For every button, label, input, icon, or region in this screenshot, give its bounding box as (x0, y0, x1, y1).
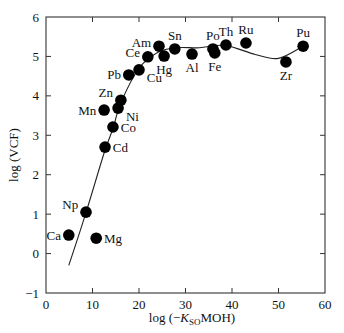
data-point-mg (90, 232, 102, 244)
x-tick-label: 10 (86, 297, 99, 312)
axis-tick-labels: 0102030405060−10123456 (25, 10, 331, 313)
x-axis-title-sub: SO (189, 317, 201, 327)
y-tick-label: 3 (33, 128, 40, 143)
data-point-cd (99, 141, 111, 153)
data-point-ce (142, 51, 154, 63)
data-point-zr (280, 56, 292, 68)
data-point-label: Pu (296, 25, 310, 40)
data-point-label: Fe (208, 59, 221, 74)
data-point-label: Th (219, 24, 234, 39)
data-point-label: Al (186, 60, 199, 75)
x-tick-label: 50 (272, 297, 285, 312)
y-tick-label: 4 (33, 88, 40, 103)
x-axis-title-suffix: MOH) (201, 310, 236, 325)
data-point-pb (123, 69, 135, 81)
scatter-chart: 0102030405060−10123456 CaNpMgCdCoMnNiZnP… (0, 0, 344, 333)
data-point-label: Ca (47, 228, 62, 243)
data-point-label: Pb (107, 67, 121, 82)
data-point-th (220, 39, 232, 51)
x-tick-label: 0 (43, 297, 50, 312)
data-point-mn (98, 104, 110, 116)
data-point-cu (133, 64, 145, 76)
y-tick-label: 0 (33, 246, 40, 261)
data-point-label: Mg (104, 231, 123, 246)
data-point-label: Sn (168, 28, 182, 43)
data-point-np (80, 206, 92, 218)
x-tick-label: 60 (319, 297, 332, 312)
data-point-label: Zr (280, 68, 293, 83)
data-point-label: Hg (156, 62, 172, 77)
x-axis-title: log (−KSOMOH) (149, 310, 235, 327)
data-point-sn (169, 43, 181, 55)
data-point-zn (115, 94, 127, 106)
x-axis-title-prefix: log (− (149, 310, 181, 325)
data-point-label: Zn (99, 85, 114, 100)
data-point-label: Mn (78, 103, 97, 118)
data-point-fe (209, 47, 221, 59)
x-tick-label: 20 (133, 297, 146, 312)
data-point-label: Cd (113, 140, 129, 155)
data-point-am (153, 40, 165, 52)
data-point-al (186, 48, 198, 60)
y-tick-label: 6 (33, 10, 40, 25)
data-point-label: Np (62, 197, 78, 212)
data-point-hg (158, 50, 170, 62)
y-tick-label: 5 (33, 49, 40, 64)
data-point-pu (297, 40, 309, 52)
y-tick-label: −1 (25, 286, 39, 301)
y-tick-label: 2 (33, 167, 40, 182)
y-tick-label: 1 (33, 207, 40, 222)
y-axis-title: log (VCF) (6, 128, 21, 182)
data-point-ca (63, 229, 75, 241)
data-point-co (107, 121, 119, 133)
data-point-label: Ru (238, 22, 254, 37)
data-point-label: Am (132, 35, 152, 50)
data-point-label: Ni (126, 109, 139, 124)
data-point-ru (240, 37, 252, 49)
